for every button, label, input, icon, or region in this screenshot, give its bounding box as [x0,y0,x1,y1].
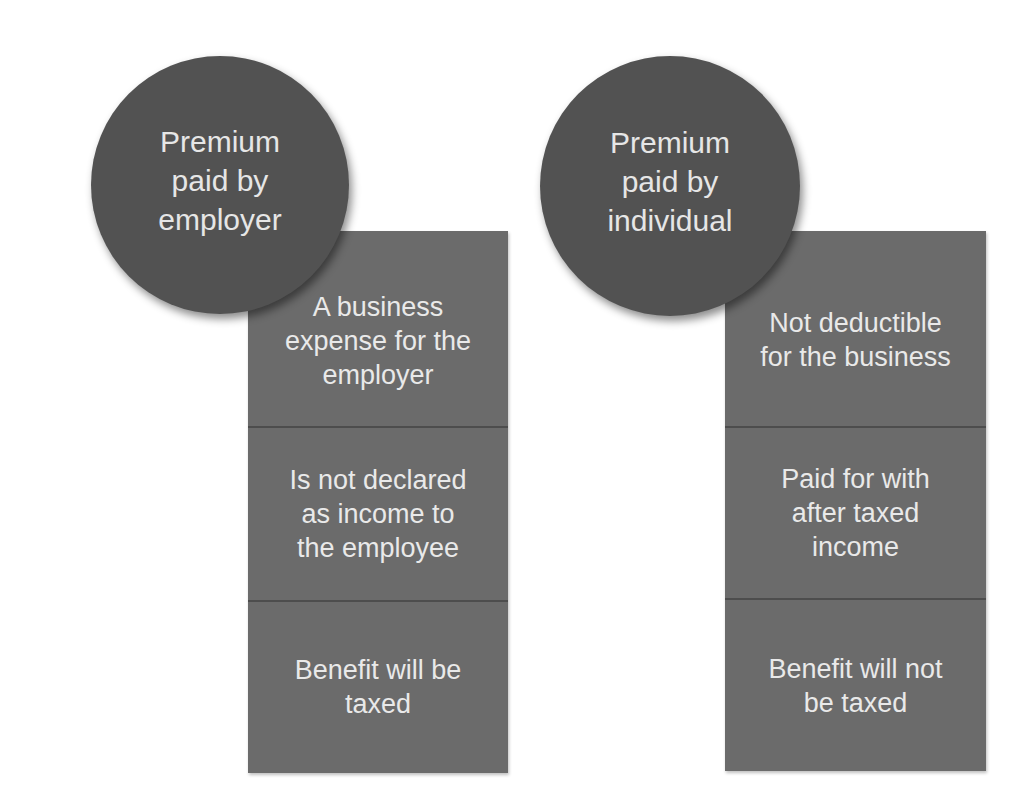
circle-line: Premium [158,122,281,161]
box-line: Is not declared [289,463,466,497]
circle-line: Premium [607,123,732,162]
box-line: after taxed [781,496,930,530]
individual-box-benefit-not-taxed: Benefit will not be taxed [725,598,986,771]
individual-paid-stack: Not deductible for the business Paid for… [725,231,986,771]
box-line: as income to [289,497,466,531]
individual-premium-circle: Premium paid by individual [540,56,800,316]
employer-premium-circle: Premium paid by employer [91,56,349,314]
employer-box-benefit-taxed: Benefit will be taxed [248,600,508,773]
box-line: A business [285,290,471,324]
individual-box-after-tax-income: Paid for with after taxed income [725,426,986,599]
box-line: Paid for with [781,462,930,496]
employer-paid-stack: A business expense for the employer Is n… [248,231,508,773]
circle-line: paid by [607,162,732,201]
box-line: employer [285,358,471,392]
box-line: Not deductible [760,306,951,340]
box-line: expense for the [285,324,471,358]
box-line: Benefit will not [768,652,942,686]
circle-line: individual [607,201,732,240]
box-line: Benefit will be [295,653,462,687]
box-line: income [781,530,930,564]
box-line: for the business [760,340,951,374]
circle-line: paid by [158,161,281,200]
employer-box-not-declared-income: Is not declared as income to the employe… [248,426,508,599]
circle-line: employer [158,200,281,239]
box-line: taxed [295,687,462,721]
box-line: be taxed [768,686,942,720]
box-line: the employee [289,531,466,565]
